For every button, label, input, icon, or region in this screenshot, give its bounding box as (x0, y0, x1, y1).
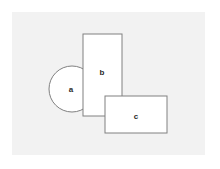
figure-root: a b c (0, 0, 220, 169)
shape-label-b: b (100, 68, 105, 77)
shape-label-a: a (69, 85, 74, 94)
shapes-diagram: a b c (0, 0, 220, 169)
shape-label-c: c (134, 112, 139, 121)
